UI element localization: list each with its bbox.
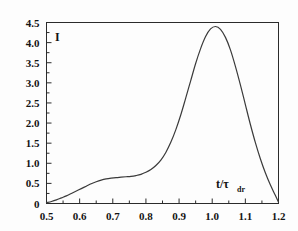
x-axis-title: t/τ [216,177,229,191]
y-tick-label: 2.5 [26,97,40,109]
y-tick-label: 4.0 [26,37,40,49]
chart-background [0,0,298,231]
x-tick-label: 1.1 [238,210,252,222]
x-tick-label: 0.6 [73,210,87,222]
chart-figure: 00.51.01.52.02.53.03.54.04.5 0.50.60.70.… [0,0,298,231]
y-axis-title: I [55,30,60,44]
line-chart-svg: 00.51.01.52.02.53.03.54.04.5 0.50.60.70.… [0,0,298,231]
y-tick-label: 0.5 [26,177,40,189]
x-tick-label: 1.0 [205,210,219,222]
y-tick-label: 3.5 [26,57,40,69]
x-tick-label: 0.9 [172,210,186,222]
x-tick-label: 1.2 [272,210,286,222]
y-tick-label: 2.0 [26,117,40,129]
y-tick-label: 0 [34,198,40,210]
x-axis-title-subscript: dr [237,185,245,194]
x-tick-label: 0.5 [40,210,54,222]
y-tick-label: 1.0 [26,157,40,169]
x-tick-label: 0.7 [106,210,120,222]
x-tick-label: 0.8 [139,210,153,222]
y-tick-label: 3.0 [26,77,40,89]
y-tick-label: 4.5 [26,17,40,29]
y-tick-label: 1.5 [26,137,40,149]
